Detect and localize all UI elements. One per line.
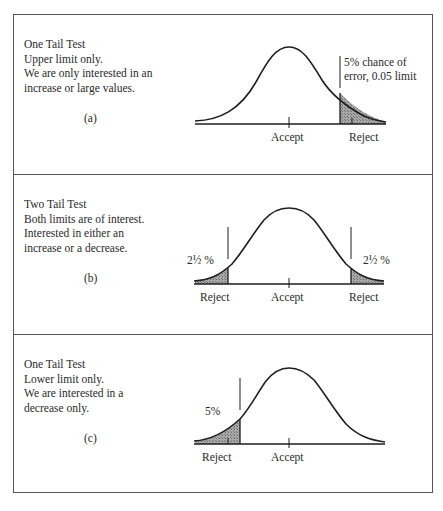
chart-a: Accept Reject 5% chance of error, 0.05 l… [195,47,417,144]
chart-a-accept-label: Accept [271,131,304,144]
chart-b-curve [194,208,384,281]
chart-c-reject-label: Reject [202,451,232,464]
chart-a-reject-label: Reject [349,131,379,144]
chart-c-accept-label: Accept [271,451,304,464]
chart-b-right-pct: 2½ % [363,254,390,266]
chart-a-annotation-2: error, 0.05 limit [344,70,417,83]
chart-b-left-reject-label: Reject [200,291,230,304]
chart-a-reject-shading [340,93,386,124]
distribution-curves: Accept Reject 5% chance of error, 0.05 l… [0,0,443,511]
chart-c-curve [194,368,385,442]
chart-b-left-pct: 2½ % [187,254,214,266]
chart-c-pct: 5% [205,405,221,417]
chart-b-right-reject-label: Reject [349,291,379,304]
chart-c: Reject Accept 5% [194,368,385,464]
chart-a-annotation-1: 5% chance of [344,56,407,68]
chart-b-right-reject-shading [351,268,384,284]
chart-b-accept-label: Accept [271,291,304,304]
chart-b: Reject Accept Reject 2½ % 2½ % [187,208,390,304]
